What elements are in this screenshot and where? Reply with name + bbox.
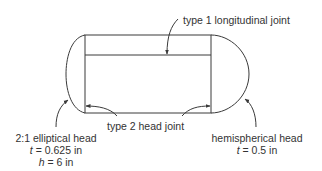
cylindrical-shell [85,35,211,113]
elliptical-head-height: h = 6 in [8,156,104,168]
elliptical-head-label: 2:1 elliptical head t = 0.625 in h = 6 i… [8,132,104,168]
hemispherical-head-name: hemispherical head [205,132,309,144]
elliptical-head-leader [56,100,68,127]
longitudinal-joint-label: type 1 longitudinal joint [183,14,290,26]
elliptical-head-name: 2:1 elliptical head [8,132,104,144]
longitudinal-joint-leader [167,19,178,54]
hemispherical-head-thickness: t = 0.5 in [205,144,309,156]
head-joint-label: type 2 head joint [107,120,184,132]
hemispherical-head-leader [245,99,256,127]
head-joint-leader-left [86,106,117,116]
head-joint-leader-right [182,106,210,116]
elliptical-head-outline [66,35,85,113]
hemispherical-head-label: hemispherical head t = 0.5 in [205,132,309,156]
hemispherical-head-outline [211,35,249,113]
elliptical-head-thickness: t = 0.625 in [8,144,104,156]
